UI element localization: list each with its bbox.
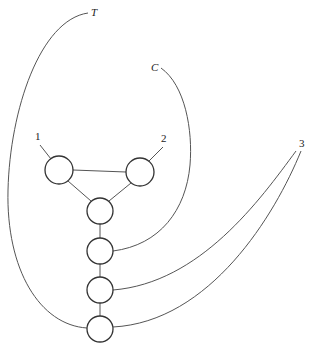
node-2 <box>126 158 154 186</box>
edge-node1-node3 <box>68 181 91 201</box>
label-terminal-3: 3 <box>299 137 305 149</box>
label-terminal-C: C <box>151 61 159 73</box>
node-4 <box>87 238 113 264</box>
leader-label1 <box>40 145 51 159</box>
edge-node2-node3 <box>109 183 131 201</box>
graph-diagram: 1 2 T C 3 <box>0 0 313 351</box>
label-terminal-T: T <box>91 6 98 18</box>
node-5 <box>87 277 113 303</box>
leader-label2 <box>149 147 163 161</box>
label-node1: 1 <box>35 130 41 142</box>
node-6 <box>87 316 113 342</box>
edge-C-to-node4 <box>113 68 191 251</box>
node-3 <box>87 198 113 224</box>
node-1 <box>45 156 73 184</box>
edge-node1-node2 <box>73 170 126 172</box>
label-node2: 2 <box>161 132 167 144</box>
